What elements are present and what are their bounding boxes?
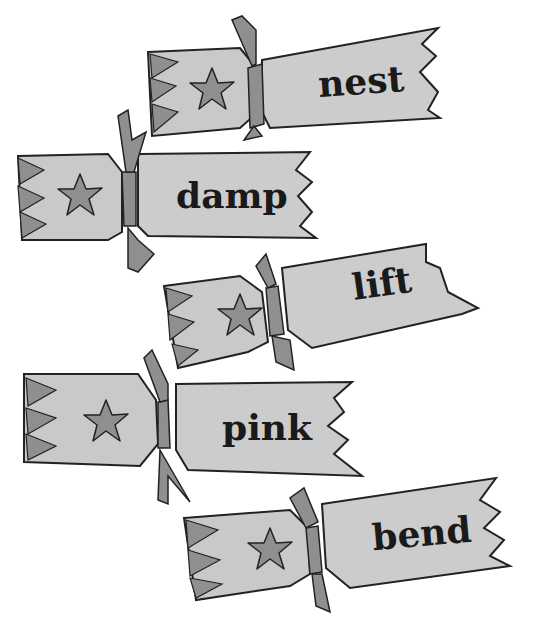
cracker-word-bend: bend xyxy=(370,508,473,559)
cracker-word-nest: nest xyxy=(317,57,406,105)
cracker-word-pink: pink xyxy=(222,406,312,448)
cracker-lift xyxy=(164,244,478,370)
cracker-word-damp: damp xyxy=(176,174,288,216)
cracker-word-lift: lift xyxy=(349,258,414,308)
